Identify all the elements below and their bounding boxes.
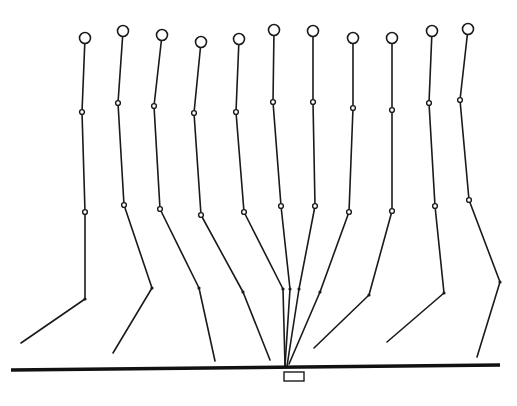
knee-joint-marker-icon xyxy=(158,207,163,212)
knee-joint-marker-icon xyxy=(242,210,247,215)
shank-segment xyxy=(469,200,500,282)
hip-joint-marker-icon xyxy=(390,108,395,113)
head-marker-icon xyxy=(387,33,398,44)
thigh-segment xyxy=(154,106,160,209)
ankle-joint-marker-icon xyxy=(281,287,284,290)
thigh-segment xyxy=(273,102,281,206)
stick-figure-6 xyxy=(269,25,292,367)
ankle-joint-marker-icon xyxy=(442,291,445,294)
foot-segment xyxy=(283,289,285,366)
ankle-joint-marker-icon xyxy=(150,286,153,289)
thigh-segment xyxy=(236,112,244,212)
head-marker-icon xyxy=(348,33,359,44)
head-marker-icon xyxy=(308,26,319,37)
thigh-segment xyxy=(194,113,201,215)
hip-joint-marker-icon xyxy=(152,104,157,109)
head-marker-icon xyxy=(196,37,207,48)
knee-joint-marker-icon xyxy=(433,204,438,209)
trunk-segment xyxy=(194,47,200,113)
shank-segment xyxy=(124,205,152,288)
trunk-segment xyxy=(154,40,161,106)
ankle-joint-marker-icon xyxy=(288,287,291,290)
shank-segment xyxy=(160,209,199,288)
thigh-segment xyxy=(82,112,85,212)
hip-joint-marker-icon xyxy=(116,101,121,106)
force-plate-icon xyxy=(284,372,304,381)
stick-figure-10 xyxy=(387,26,446,343)
shank-segment xyxy=(435,206,444,293)
thigh-segment xyxy=(313,102,315,206)
hip-joint-marker-icon xyxy=(271,100,276,105)
ankle-joint-marker-icon xyxy=(197,286,200,289)
head-marker-icon xyxy=(269,25,280,36)
stick-figure-sequence xyxy=(21,24,502,367)
stick-figure-5 xyxy=(234,34,286,367)
hip-joint-marker-icon xyxy=(458,98,463,103)
stick-figure-9 xyxy=(314,33,398,349)
trunk-segment xyxy=(273,35,274,102)
thigh-segment xyxy=(429,103,435,206)
head-marker-icon xyxy=(80,33,91,44)
stick-figure-3 xyxy=(152,30,215,362)
trunk-segment xyxy=(460,34,467,100)
stick-figure-1 xyxy=(21,33,91,344)
gait-diagram xyxy=(0,0,517,406)
thigh-segment xyxy=(460,100,469,200)
shank-segment xyxy=(369,211,392,295)
shank-segment xyxy=(281,206,290,289)
ground-line xyxy=(11,365,500,370)
knee-joint-marker-icon xyxy=(83,210,88,215)
shank-segment xyxy=(201,215,243,292)
knee-joint-marker-icon xyxy=(347,210,352,215)
trunk-segment xyxy=(429,36,432,103)
head-marker-icon xyxy=(118,26,129,37)
head-marker-icon xyxy=(234,34,245,45)
hip-joint-marker-icon xyxy=(80,110,85,115)
shank-segment xyxy=(320,212,349,292)
head-marker-icon xyxy=(427,26,438,37)
hip-joint-marker-icon xyxy=(351,106,356,111)
foot-segment xyxy=(314,295,369,348)
head-marker-icon xyxy=(463,24,474,35)
thigh-segment xyxy=(118,103,124,205)
foot-segment xyxy=(199,288,215,361)
ankle-joint-marker-icon xyxy=(297,287,300,290)
ankle-joint-marker-icon xyxy=(318,290,321,293)
ankle-joint-marker-icon xyxy=(241,290,244,293)
shank-segment xyxy=(244,212,283,289)
knee-joint-marker-icon xyxy=(467,198,472,203)
knee-joint-marker-icon xyxy=(199,213,204,218)
ankle-joint-marker-icon xyxy=(83,297,86,300)
trunk-segment xyxy=(236,44,239,112)
hip-joint-marker-icon xyxy=(192,111,197,116)
shank-segment xyxy=(299,206,315,289)
hip-joint-marker-icon xyxy=(234,110,239,115)
ankle-joint-marker-icon xyxy=(367,293,370,296)
hip-joint-marker-icon xyxy=(427,101,432,106)
knee-joint-marker-icon xyxy=(122,203,127,208)
foot-segment xyxy=(387,293,444,342)
trunk-segment xyxy=(118,36,123,103)
knee-joint-marker-icon xyxy=(313,204,318,209)
foot-segment xyxy=(113,288,152,353)
trunk-segment xyxy=(82,43,85,112)
stick-figure-2 xyxy=(113,26,154,354)
knee-joint-marker-icon xyxy=(279,204,284,209)
knee-joint-marker-icon xyxy=(390,209,395,214)
foot-segment xyxy=(477,282,500,357)
stick-figure-7 xyxy=(287,26,319,367)
ankle-joint-marker-icon xyxy=(498,280,501,283)
thigh-segment xyxy=(349,108,353,212)
head-marker-icon xyxy=(157,30,168,41)
foot-segment xyxy=(243,292,270,360)
hip-joint-marker-icon xyxy=(311,100,316,105)
foot-segment xyxy=(21,299,85,343)
stick-figure-11 xyxy=(458,24,502,358)
